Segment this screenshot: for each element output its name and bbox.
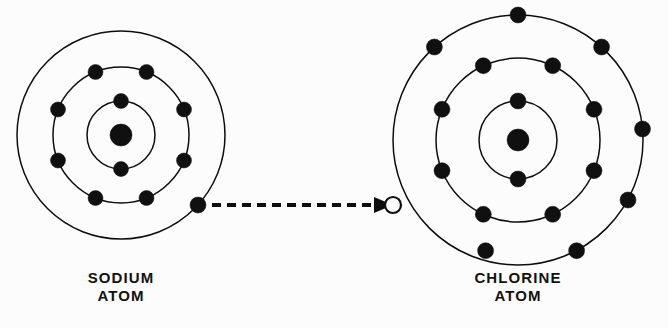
chlorine-nucleus xyxy=(507,129,529,151)
atom-sodium: SODIUM ATOM xyxy=(17,31,225,304)
sodium-valence-electron xyxy=(190,197,206,213)
chlorine-middle-electron xyxy=(434,101,450,117)
chlorine-middle-electron xyxy=(586,101,602,117)
chlorine-middle-electron xyxy=(545,58,561,74)
chlorine-outer-electron xyxy=(510,7,526,23)
chlorine-middle-electron xyxy=(434,163,450,179)
sodium-middle-electron xyxy=(51,153,66,168)
chlorine-caption-line1: CHLORINE xyxy=(474,269,561,286)
sodium-middle-electron xyxy=(177,153,192,168)
chlorine-caption-line2: ATOM xyxy=(494,287,541,304)
chlorine-inner-electron xyxy=(510,171,526,187)
chlorine-outer-shell-vacancy xyxy=(385,197,401,213)
chlorine-outer-electron xyxy=(620,192,636,208)
chlorine-outer-electron xyxy=(478,243,494,259)
sodium-inner-electron xyxy=(114,162,129,177)
sodium-middle-electron xyxy=(139,65,154,80)
chlorine-middle-electron xyxy=(475,206,491,222)
chlorine-inner-electron xyxy=(510,93,526,109)
sodium-inner-electron xyxy=(114,94,129,109)
electron-transfer-arrow xyxy=(212,197,393,213)
atom-chlorine: CHLORINE ATOM xyxy=(385,7,651,304)
chlorine-outer-electron xyxy=(594,39,610,55)
atom-transfer-diagram: SODIUM ATOM xyxy=(0,0,668,328)
sodium-caption-line1: SODIUM xyxy=(88,269,155,286)
chlorine-outer-electron xyxy=(426,39,442,55)
chlorine-middle-electron xyxy=(475,58,491,74)
sodium-middle-electron xyxy=(177,102,192,117)
sodium-middle-electron xyxy=(88,191,103,206)
diagram-canvas: SODIUM ATOM xyxy=(0,0,668,328)
chlorine-middle-electron xyxy=(586,163,602,179)
chlorine-outer-electron xyxy=(569,243,585,259)
sodium-nucleus xyxy=(110,124,132,146)
sodium-middle-electron xyxy=(88,65,103,80)
sodium-middle-electron xyxy=(51,102,66,117)
sodium-caption-line2: ATOM xyxy=(97,287,144,304)
sodium-middle-electron xyxy=(139,191,154,206)
chlorine-middle-electron xyxy=(545,206,561,222)
chlorine-outer-electron xyxy=(635,121,651,137)
